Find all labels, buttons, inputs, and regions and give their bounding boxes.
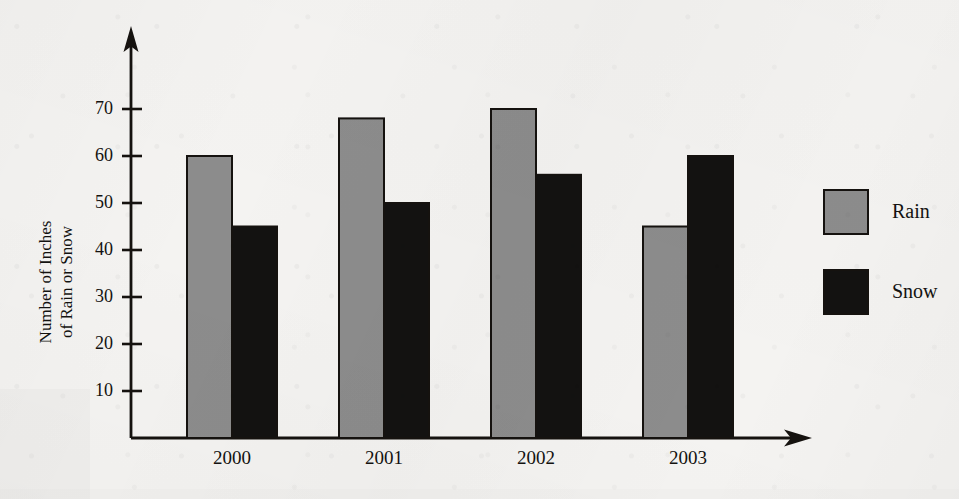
bar-rain-2001 [339, 118, 384, 438]
y-axis-title-line-2: of Rain or Snow [57, 225, 76, 338]
x-category-label: 2001 [365, 447, 403, 468]
y-axis-ticks: 10203040506070 [95, 98, 142, 400]
y-tick-label: 60 [95, 145, 113, 165]
y-tick-label: 50 [95, 192, 113, 212]
y-tick-label: 10 [95, 380, 113, 400]
legend-label-snow: Snow [892, 280, 938, 302]
y-tick-label: 70 [95, 98, 113, 118]
legend: RainSnow [824, 190, 938, 314]
legend-swatch-rain [824, 190, 868, 234]
bar-snow-2001 [384, 203, 429, 438]
x-category-label: 2000 [213, 447, 251, 468]
y-axis-title: Number of Inches of Rain or Snow [36, 221, 76, 344]
bar-snow-2002 [536, 175, 581, 438]
legend-label-rain: Rain [892, 200, 930, 222]
bar-rain-2002 [491, 109, 536, 438]
bar-rain-2000 [187, 156, 232, 438]
x-category-label: 2002 [517, 447, 555, 468]
bar-snow-2000 [232, 227, 277, 439]
bar-group [187, 109, 733, 438]
y-tick-label: 30 [95, 286, 113, 306]
bar-chart: 10203040506070 2000200120022003 Number o… [0, 0, 959, 499]
y-tick-label: 40 [95, 239, 113, 259]
bar-rain-2003 [643, 227, 688, 439]
x-axis-category-labels: 2000200120022003 [213, 447, 707, 468]
x-category-label: 2003 [669, 447, 707, 468]
y-axis-title-line-1: Number of Inches [36, 221, 55, 344]
bar-snow-2003 [688, 156, 733, 438]
legend-swatch-snow [824, 270, 868, 314]
y-tick-label: 20 [95, 333, 113, 353]
